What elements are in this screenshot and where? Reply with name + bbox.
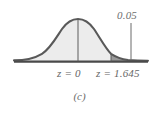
body-shaded-area bbox=[14, 19, 111, 61]
alpha-area-label: 0.05 bbox=[117, 9, 137, 21]
z-critical-label: z = 1.645 bbox=[96, 67, 140, 79]
normal-distribution-figure: 0.05 z = 0 z = 1.645 (c) bbox=[0, 0, 159, 113]
figure-caption: (c) bbox=[0, 90, 159, 102]
z-zero-label: z = 0 bbox=[57, 67, 81, 79]
